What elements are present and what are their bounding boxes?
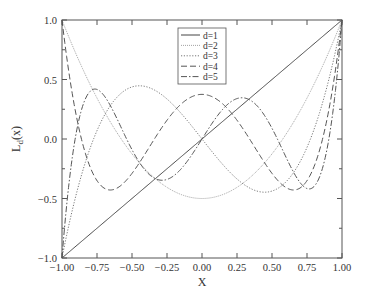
y-axis-label: Ld(x) <box>9 126 25 152</box>
legend-box <box>178 28 226 84</box>
x-tick-label: 0.25 <box>228 262 246 273</box>
x-tick-label: −0.75 <box>85 262 109 273</box>
x-tick-label: 0.50 <box>263 262 281 273</box>
legendre-chart: −1.00−0.75−0.50−0.250.000.250.500.751.00… <box>0 0 366 299</box>
x-axis-label: X <box>198 275 207 289</box>
legend-label: d=4 <box>203 62 218 72</box>
y-tick-label: −1.0 <box>38 253 57 264</box>
svg-text:Ld(x): Ld(x) <box>9 126 25 152</box>
y-tick-label: −0.5 <box>38 194 57 205</box>
legend-label: d=1 <box>203 31 218 41</box>
legend: d=1d=2d=3d=4d=5 <box>178 28 226 84</box>
x-tick-label: −0.25 <box>155 262 179 273</box>
y-tick-label: 1.0 <box>44 15 57 26</box>
y-tick-label: 0.5 <box>44 75 57 86</box>
legend-label: d=2 <box>203 41 218 51</box>
x-tick-label: −0.50 <box>120 262 144 273</box>
x-tick-label: 1.00 <box>333 262 351 273</box>
y-label-tail: (x) <box>9 126 23 140</box>
legend-label: d=3 <box>203 51 218 61</box>
legend-label: d=5 <box>203 72 218 82</box>
y-tick-label: 0.0 <box>44 134 57 145</box>
y-label-main: L <box>9 145 23 152</box>
x-tick-label: 0.00 <box>193 262 211 273</box>
x-tick-label: 0.75 <box>298 262 316 273</box>
